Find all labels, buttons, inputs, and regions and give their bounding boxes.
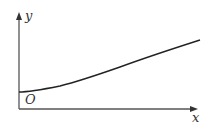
x-axis-label: x bbox=[192, 110, 200, 125]
origin-label: O bbox=[25, 92, 36, 107]
function-graph: y O x bbox=[0, 0, 209, 130]
function-curve bbox=[19, 40, 200, 92]
y-axis-arrow-icon bbox=[16, 12, 22, 20]
y-axis-label: y bbox=[24, 8, 33, 23]
